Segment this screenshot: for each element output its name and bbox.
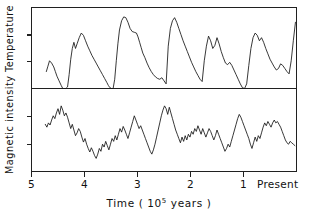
- frame-outline: [32, 8, 297, 172]
- x-tick-label-4: 4: [81, 178, 88, 190]
- x-axis-title-text: Time ( 105 years ): [106, 197, 212, 210]
- x-axis-ticks: [32, 172, 244, 177]
- plot-frame: [32, 8, 297, 172]
- x-tick-label-5: 5: [28, 178, 35, 190]
- data-layer: [45, 17, 295, 159]
- x-axis-tick-labels: 54321Present: [28, 178, 298, 190]
- y-axis-title-text: Magnetic intensity Temperature: [4, 5, 15, 174]
- x-tick-label-3: 3: [134, 178, 141, 190]
- x-tick-label-1: 1: [240, 178, 247, 190]
- y-axis-title: Magnetic intensity Temperature: [4, 5, 15, 174]
- y-axis-ticks: [27, 35, 32, 144]
- chart-svg: 54321Present Time ( 105 years ) Magnetic…: [0, 0, 318, 214]
- x-tick-label-present: Present: [257, 178, 299, 190]
- temperature-curve: [46, 17, 295, 89]
- magnetic-intensity-curve: [45, 106, 295, 159]
- x-axis-title: Time ( 105 years ): [106, 197, 212, 210]
- figure-container: 54321Present Time ( 105 years ) Magnetic…: [0, 0, 318, 214]
- x-tick-label-2: 2: [187, 178, 194, 190]
